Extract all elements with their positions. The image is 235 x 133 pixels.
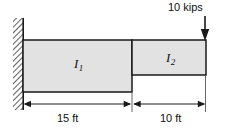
fixed-support <box>13 18 23 110</box>
inertia-subscript-2: 2 <box>170 57 175 67</box>
beam-diagram: 10 kips I1 I2 15 ft 10 ft <box>0 0 235 133</box>
dimension-label-15ft: 15 ft <box>57 113 78 124</box>
inertia-label-segment-2: I2 <box>166 51 175 67</box>
dimension-label-10ft: 10 ft <box>160 113 181 124</box>
inertia-label-segment-1: I1 <box>74 57 83 73</box>
dimension-line-15ft <box>24 101 132 107</box>
dimension-line-10ft <box>133 101 205 107</box>
load-label: 10 kips <box>168 2 203 13</box>
point-load-arrow <box>201 16 209 41</box>
inertia-subscript-1: 1 <box>78 63 83 73</box>
wall-hatching <box>13 18 23 110</box>
beam-diagram-canvas <box>0 0 235 133</box>
extension-lines <box>132 76 206 112</box>
